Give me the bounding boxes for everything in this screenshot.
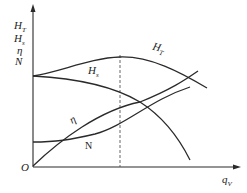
curve-label-hs: Hs [88,65,99,81]
curve-hs [33,76,190,160]
y-axis-arrow-icon [31,4,36,12]
curve-eta [33,71,198,166]
x-axis-arrow-icon [233,165,241,170]
chart-canvas [0,0,247,193]
pump-performance-chart: HT Hs η N O qV HT Hs η N [0,0,247,193]
x-axis-label: qV [222,174,232,190]
curve-n [33,87,190,142]
origin-label: O [21,162,29,173]
y-label-n: N [15,56,22,67]
curve-label-n: N [85,140,92,151]
